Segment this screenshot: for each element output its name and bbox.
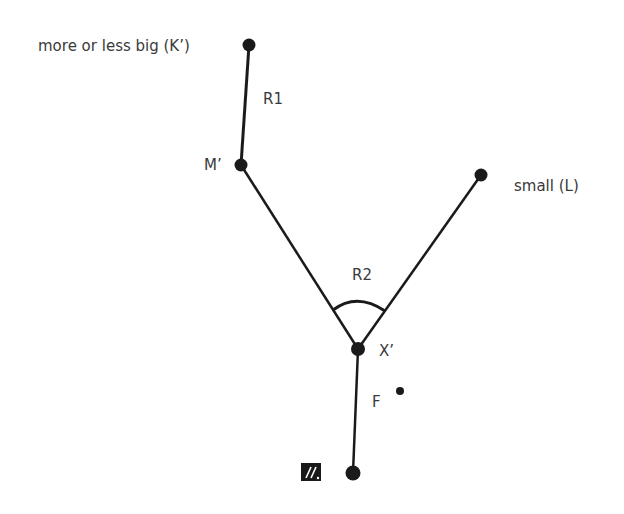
label-r1: R1 bbox=[263, 90, 283, 108]
stray-dot bbox=[396, 387, 404, 395]
node-m bbox=[235, 159, 248, 172]
label-r2: R2 bbox=[352, 266, 372, 284]
label-l: small (L) bbox=[514, 177, 579, 195]
edge-m-x bbox=[241, 165, 358, 349]
node-bottom bbox=[346, 466, 361, 481]
slashed-box-icon bbox=[301, 463, 321, 481]
label-f: F bbox=[372, 393, 381, 411]
node-x bbox=[351, 342, 365, 356]
diagram-canvas: more or less big (K’) M’ small (L) X’ R1… bbox=[0, 0, 624, 514]
node-k bbox=[243, 39, 256, 52]
node-l bbox=[475, 169, 488, 182]
edge-l-x bbox=[358, 175, 481, 349]
label-k: more or less big (K’) bbox=[38, 37, 190, 55]
label-x: X’ bbox=[379, 342, 394, 360]
angle-arc bbox=[333, 301, 385, 311]
label-m: M’ bbox=[204, 156, 222, 174]
edge-k-m bbox=[241, 45, 249, 165]
edge-x-b bbox=[353, 349, 358, 473]
